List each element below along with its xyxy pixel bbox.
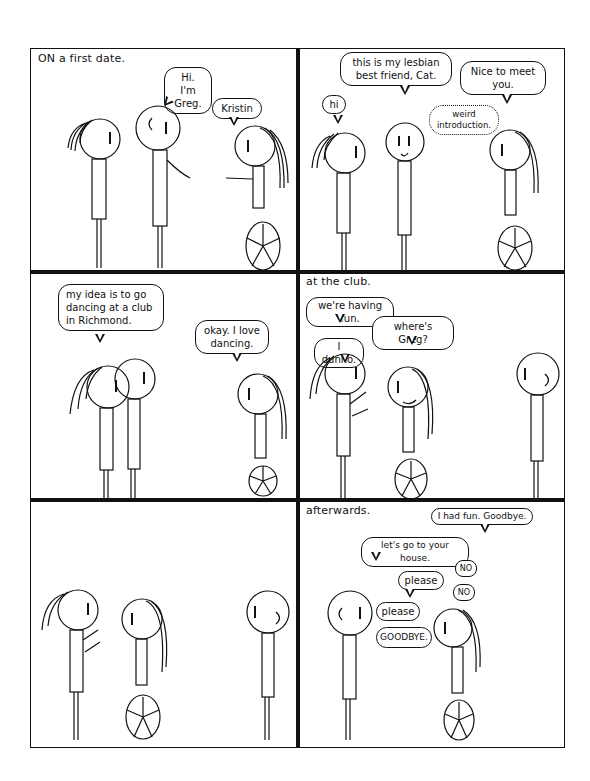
figure-greg <box>30 502 296 748</box>
comic-page: ON a first date. Hi. I'm Greg. Kristin <box>0 0 590 781</box>
panel-6: afterwards. I had fun. Goodbye. let's go… <box>300 502 565 748</box>
panel-3: my idea is to go dancing at a club in Ri… <box>30 274 296 498</box>
figure-greg <box>300 274 565 498</box>
panel-2: hi this is my lesbian best friend, Cat. … <box>300 48 565 270</box>
figure-kristin-wheelchair <box>300 48 565 270</box>
panel-5 <box>30 502 296 748</box>
figure-kristin-wheelchair <box>30 274 296 498</box>
panel-4: at the club. we're having fun. where's G… <box>300 274 565 498</box>
figure-kristin-wheelchair <box>30 48 296 270</box>
figure-kristin-wheelchair <box>300 502 565 748</box>
panel-1: ON a first date. Hi. I'm Greg. Kristin <box>30 48 296 270</box>
